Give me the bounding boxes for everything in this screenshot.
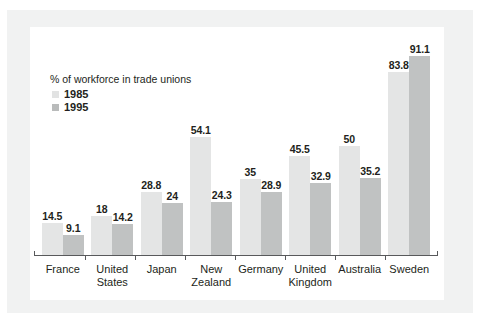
x-axis-tick bbox=[185, 255, 186, 260]
x-axis-tick bbox=[385, 255, 386, 260]
x-axis-category-labels: France United States Japan New Zealand G… bbox=[38, 263, 434, 289]
bar-value-label: 14.2 bbox=[113, 211, 133, 223]
chart-panel: % of workforce in trade unions 1985 1995 bbox=[30, 27, 444, 300]
bar-value-label: 28.9 bbox=[261, 179, 281, 191]
bar-new-zealand-1995[interactable]: 24.3 bbox=[211, 202, 232, 255]
bar-wrap-united-states-1995: 14.2 bbox=[112, 37, 133, 255]
bar-japan-1985[interactable]: 28.8 bbox=[141, 192, 162, 255]
x-axis-left-cap bbox=[34, 251, 35, 256]
label-line: Zealand bbox=[187, 276, 237, 289]
x-axis-label-japan: Japan bbox=[137, 263, 187, 289]
bar-value-label: 24.3 bbox=[212, 189, 232, 201]
bar-group-united-kingdom: 45.5 32.9 bbox=[286, 37, 336, 255]
bar-value-label: 24 bbox=[167, 190, 178, 202]
label-line: Germany bbox=[236, 263, 286, 276]
bar-group-germany: 35 28.9 bbox=[236, 37, 286, 255]
bar-united-kingdom-1995[interactable]: 32.9 bbox=[310, 183, 331, 255]
x-axis-tick bbox=[335, 255, 336, 260]
bar-group-australia: 50 35.2 bbox=[335, 37, 385, 255]
bar-wrap-france-1995: 9.1 bbox=[63, 37, 84, 255]
bar-value-label: 50 bbox=[344, 133, 355, 145]
bar-japan-1995[interactable]: 24 bbox=[162, 203, 183, 255]
bar-value-label: 35 bbox=[245, 166, 256, 178]
bar-france-1995[interactable]: 9.1 bbox=[63, 235, 84, 255]
x-axis-tick bbox=[135, 255, 136, 260]
bar-value-label: 14.5 bbox=[42, 210, 62, 222]
bar-group-japan: 28.8 24 bbox=[137, 37, 187, 255]
label-line: New bbox=[187, 263, 237, 276]
bar-group-united-states: 18 14.2 bbox=[88, 37, 138, 255]
bar-wrap-australia-1995: 35.2 bbox=[360, 37, 381, 255]
label-line: Sweden bbox=[385, 263, 435, 276]
bar-united-states-1985[interactable]: 18 bbox=[91, 216, 112, 255]
bar-wrap-germany-1985: 35 bbox=[240, 37, 261, 255]
bar-united-states-1995[interactable]: 14.2 bbox=[112, 224, 133, 255]
label-line: States bbox=[88, 276, 138, 289]
bar-value-label: 83.8 bbox=[389, 59, 409, 71]
grouped-bar-chart: % of workforce in trade unions 1985 1995 bbox=[30, 27, 444, 300]
bar-wrap-sweden-1995: 91.1 bbox=[409, 37, 430, 255]
bar-sweden-1995[interactable]: 91.1 bbox=[409, 56, 430, 255]
bar-group-new-zealand: 54.1 24.3 bbox=[187, 37, 237, 255]
x-axis-label-sweden: Sweden bbox=[385, 263, 435, 289]
bar-germany-1995[interactable]: 28.9 bbox=[261, 192, 282, 255]
bar-wrap-united-kingdom-1995: 32.9 bbox=[310, 37, 331, 255]
x-axis-label-australia: Australia bbox=[335, 263, 385, 289]
x-axis-right-cap bbox=[437, 251, 438, 256]
bar-wrap-united-states-1985: 18 bbox=[91, 37, 112, 255]
bar-value-label: 54.1 bbox=[191, 124, 211, 136]
bar-wrap-france-1985: 14.5 bbox=[42, 37, 63, 255]
bar-value-label: 35.2 bbox=[360, 165, 380, 177]
bar-value-label: 9.1 bbox=[66, 222, 80, 234]
label-line: Japan bbox=[137, 263, 187, 276]
bar-value-label: 28.8 bbox=[141, 179, 161, 191]
bar-new-zealand-1985[interactable]: 54.1 bbox=[190, 137, 211, 255]
bar-group-france: 14.5 9.1 bbox=[38, 37, 88, 255]
bar-wrap-germany-1995: 28.9 bbox=[261, 37, 282, 255]
bar-wrap-japan-1985: 28.8 bbox=[141, 37, 162, 255]
bar-value-label: 91.1 bbox=[410, 43, 430, 55]
bar-wrap-australia-1985: 50 bbox=[339, 37, 360, 255]
label-line: Kingdom bbox=[286, 276, 336, 289]
label-line: Australia bbox=[335, 263, 385, 276]
label-line: France bbox=[38, 263, 88, 276]
bar-australia-1985[interactable]: 50 bbox=[339, 146, 360, 255]
bar-wrap-new-zealand-1995: 24.3 bbox=[211, 37, 232, 255]
bar-wrap-sweden-1985: 83.8 bbox=[388, 37, 409, 255]
bar-value-label: 32.9 bbox=[311, 170, 331, 182]
bar-value-label: 18 bbox=[96, 203, 107, 215]
x-axis-tick bbox=[85, 255, 86, 260]
bar-value-label: 45.5 bbox=[290, 143, 310, 155]
bar-australia-1995[interactable]: 35.2 bbox=[360, 178, 381, 255]
chart-screenshot: % of workforce in trade unions 1985 1995 bbox=[0, 0, 482, 324]
bar-germany-1985[interactable]: 35 bbox=[240, 179, 261, 255]
x-axis-baseline bbox=[34, 255, 438, 256]
x-axis-label-france: France bbox=[38, 263, 88, 289]
x-axis-label-germany: Germany bbox=[236, 263, 286, 289]
x-axis-label-united-kingdom: United Kingdom bbox=[286, 263, 336, 289]
bar-france-1985[interactable]: 14.5 bbox=[42, 223, 63, 255]
label-line: United bbox=[286, 263, 336, 276]
bar-wrap-united-kingdom-1985: 45.5 bbox=[289, 37, 310, 255]
bar-sweden-1985[interactable]: 83.8 bbox=[388, 72, 409, 255]
bar-wrap-japan-1995: 24 bbox=[162, 37, 183, 255]
x-axis-tick bbox=[235, 255, 236, 260]
label-line: United bbox=[88, 263, 138, 276]
bar-wrap-new-zealand-1985: 54.1 bbox=[190, 37, 211, 255]
plot-area: 14.5 9.1 18 bbox=[38, 37, 434, 255]
x-axis-label-new-zealand: New Zealand bbox=[187, 263, 237, 289]
bar-united-kingdom-1985[interactable]: 45.5 bbox=[289, 156, 310, 255]
bar-group-sweden: 83.8 91.1 bbox=[385, 37, 435, 255]
bar-groups: 14.5 9.1 18 bbox=[38, 37, 434, 255]
x-axis-label-united-states: United States bbox=[88, 263, 138, 289]
x-axis-tick bbox=[285, 255, 286, 260]
